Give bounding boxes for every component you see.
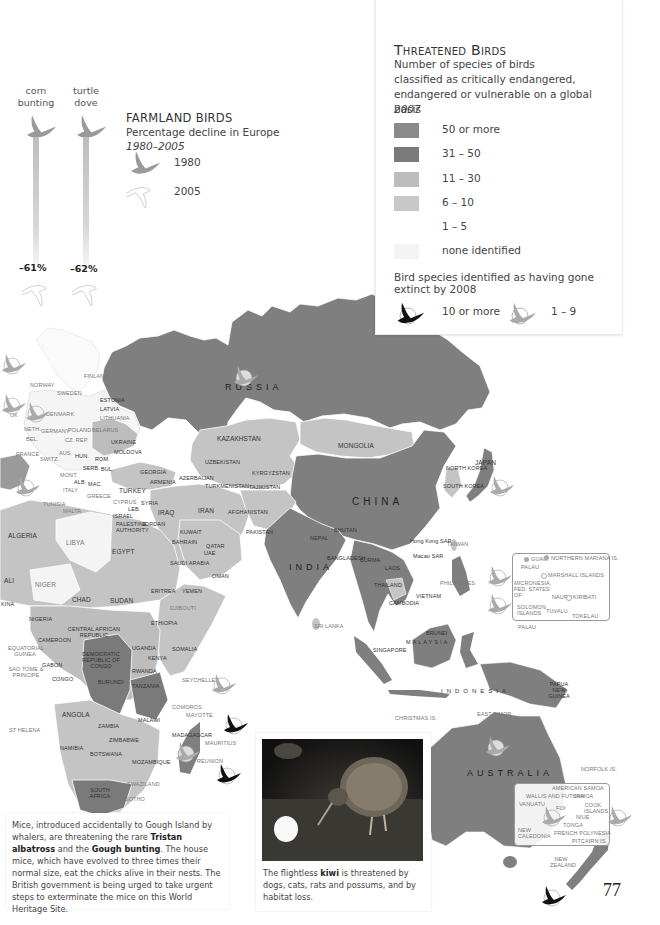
legend-title: Threatened Birds: [394, 42, 506, 58]
guam-dot: [524, 557, 529, 562]
legend-subtitle-line2: classified as critically endangered,: [394, 72, 575, 87]
mice-caption-box: Mice, introduced accidentally to Gough I…: [6, 813, 229, 909]
label-tunisia: TUNISIA: [43, 502, 65, 508]
tanzania-shape: [130, 672, 168, 720]
label-mali: ALI: [4, 578, 14, 585]
sulawesi-shape: [460, 632, 478, 668]
kiwi-photo: [262, 739, 423, 861]
bird-2005-icon: [72, 276, 106, 306]
label-mauritius: MAURITIUS: [205, 741, 236, 747]
label-marshall: MARSHALL ISLANDS: [548, 573, 604, 579]
label-mayotte: MAYOTTE: [186, 713, 213, 719]
label-palestine: PALESTINE AUTHORITY: [116, 522, 140, 534]
decline-value-turtle-dove: –62%: [70, 263, 98, 274]
label-congo: CONGO: [52, 677, 73, 683]
decline-value-corn-bunting: –61%: [19, 262, 47, 273]
label-sweden: SWEDEN: [57, 391, 82, 397]
label-serb: SERB.: [83, 466, 100, 472]
black-bird-icon: [394, 296, 424, 326]
label-french-polynesia: FRENCH POLYNESIA: [554, 831, 611, 837]
label-macao: Macao SAR: [413, 554, 443, 560]
horn-africa-shape: [156, 584, 226, 676]
label-qatar: QATAR: [206, 544, 225, 550]
label-bul: BUL.: [101, 467, 114, 473]
label-drc: DEMOCRATIC REPUBLIC OF CONGO: [80, 652, 122, 669]
extinct-marker-micronesia-icon: [486, 560, 516, 590]
bird-1980-icon: [72, 112, 106, 140]
label-malta: MALTA: [63, 509, 81, 515]
label-mac: MAC.: [88, 482, 102, 488]
legend-subtitle-line1: Number of species of birds: [394, 57, 535, 72]
legend-swatch: [394, 196, 419, 211]
extinct-marker-russia-icon: [232, 360, 262, 390]
decline-bar-turtle-dove: [83, 137, 89, 265]
label-tajikistan: TAJIKISTAN: [249, 485, 280, 491]
label-armenia: ARMENIA: [150, 480, 176, 486]
bird-1980-icon: [22, 112, 56, 140]
extinct-marker-mauritius-icon: [222, 708, 252, 738]
label-cz-rep: CZ. REP.: [65, 438, 88, 444]
label-azerbaijan: AZERBAIJAN: [179, 476, 214, 482]
label-swaziland: SWAZILAND: [127, 782, 160, 788]
label-egypt: EGYPT: [112, 549, 135, 556]
label-brunei: BRUNEI: [426, 631, 447, 637]
label-bel: BEL.: [26, 437, 38, 443]
label-cook-islands: COOK ISLANDS: [584, 803, 602, 815]
label-finland: FINLAND: [84, 374, 108, 380]
turkey-shape: [110, 462, 176, 490]
label-cameroon: CAMEROON: [38, 638, 71, 644]
label-malaysia: MALAYSIA: [406, 640, 449, 646]
label-neth: NETH.: [24, 427, 41, 433]
label-lesotho: LESOTHO: [118, 797, 145, 803]
kiribati-dot: [566, 595, 572, 601]
label-japan: JAPAN: [475, 460, 496, 467]
legend-swatch: [394, 123, 419, 138]
label-israel: ISRAEL: [113, 514, 133, 520]
label-new-zealand: NEW ZEALAND: [550, 857, 572, 869]
label-turkey: TURKEY: [119, 488, 146, 495]
label-moldova: MOLDOVA: [114, 450, 142, 456]
legend-year: 2007: [394, 102, 421, 117]
label-singapore: SINGAPORE: [373, 648, 407, 654]
label-indonesia: INDONESIA: [441, 688, 510, 694]
label-vietnam: VIETNAM: [416, 594, 441, 600]
extinct-marker-australia-icon: [484, 730, 514, 760]
label-micronesia: MICRONESIA, FED. STATES OF: [514, 581, 554, 598]
kiwi-caption: The flightless kiwi is threatened by dog…: [263, 867, 428, 903]
legend-swatch: [394, 244, 419, 259]
label-eq-guinea: EQUATORIAL GUINEA: [8, 646, 42, 658]
label-aus: AUS.: [59, 451, 72, 457]
label-kiribati: KIRIBATI: [573, 595, 596, 601]
label-hong-kong: Hong Kong SAR: [410, 539, 452, 545]
label-norway: NORWAY: [30, 383, 55, 389]
label-leb: LEB.: [128, 507, 140, 513]
label-burkina: KINA: [1, 602, 14, 608]
label-angola: ANGOLA: [62, 712, 90, 719]
label-south-africa: SOUTH AFRICA: [84, 788, 116, 800]
label-algeria: ALGERIA: [8, 533, 37, 540]
label-palau: PALAU: [521, 565, 539, 571]
label-south-korea: SOUTH KOREA: [443, 484, 484, 490]
farmland-title: FARMLAND BIRDS: [126, 111, 233, 125]
label-n-mariana: NORTHERN MARIANA IS.: [551, 556, 619, 562]
label-eritrea: ERITREA: [151, 589, 176, 595]
label-uzbekistan: UZBEKISTAN: [205, 460, 240, 466]
label-thailand: THAILAND: [374, 583, 402, 589]
label-poland: POLAND: [68, 428, 91, 434]
label-namibia: NAMIBIA: [60, 746, 83, 752]
label-cambodia: CAMBODIA: [389, 601, 419, 607]
label-chad: CHAD: [72, 597, 91, 604]
kiwi-text: kiwi: [320, 868, 339, 878]
label-estonia: ESTONIA: [100, 398, 125, 404]
label-mozambique: MOZAMBIQUE: [132, 760, 171, 766]
label-mont: MONT.: [60, 473, 78, 479]
extinct-marker-denmark-icon: [24, 396, 54, 426]
label-nepal: NEPAL: [310, 536, 328, 542]
label-turkmenistan: TURKMENISTAN: [205, 484, 249, 490]
label-lithuania: LITHUANIA: [100, 416, 130, 422]
label-latvia: LATVIA: [100, 407, 119, 413]
label-sudan: SUDAN: [110, 598, 133, 605]
label-burundi: BURUNDI: [98, 680, 124, 686]
label-philippines: PHILIPPINES: [440, 581, 475, 587]
label-mongolia: MONGOLIA: [338, 443, 374, 450]
